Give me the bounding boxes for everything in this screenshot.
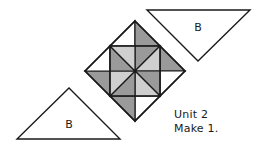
triangle-b-bottom-left-group: B <box>17 88 120 139</box>
quilt-unit-diagram: B B <box>0 0 260 148</box>
unit-caption-make: Make 1. <box>174 122 218 136</box>
triangle-b-top-right-label: B <box>194 21 202 34</box>
unit-caption-unit: Unit 2 <box>174 108 218 122</box>
unit-caption: Unit 2 Make 1. <box>174 108 218 136</box>
diagram-canvas: B B <box>0 0 260 148</box>
triangle-b-bottom-left-label: B <box>65 118 73 131</box>
center-block <box>85 21 185 121</box>
triangle-b-bottom-left <box>17 88 120 139</box>
